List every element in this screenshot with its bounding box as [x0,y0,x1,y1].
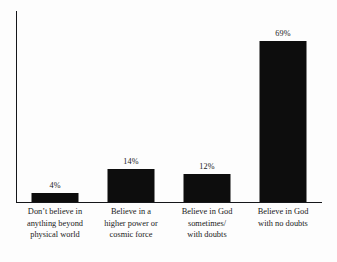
bar-value-label-1: 14% [123,157,138,166]
bar-chart: 4% 14% 12% 69% Don’t believe in anything… [0,0,337,262]
x-axis-label-3: Believe in God with no doubts [240,206,326,229]
x-axis-label-1-line-0: Believe in a [88,206,174,218]
bar-group-1: 14% [93,11,169,202]
x-axis-label-0: Don’t believe in anything beyond physica… [12,206,98,241]
x-axis-label-2-line-2: with doubts [164,229,250,241]
x-axis-label-0-line-0: Don’t believe in [12,206,98,218]
bar-0[interactable] [32,193,79,202]
bar-group-2: 12% [169,11,245,202]
x-axis-label-1-line-2: cosmic force [88,229,174,241]
x-axis-label-3-line-0: Believe in God [240,206,326,218]
x-axis-label-0-line-2: physical world [12,229,98,241]
bar-1[interactable] [108,169,155,202]
bar-3[interactable] [260,41,307,202]
bar-value-label-2: 12% [199,162,214,171]
bar-group-0: 4% [17,11,93,202]
x-axis-label-0-line-1: anything beyond [12,218,98,230]
x-axis-label-1-line-1: higher power or [88,218,174,230]
bar-group-3: 69% [245,11,321,202]
x-axis-label-2: Believe in God sometimes/ with doubts [164,206,250,241]
x-axis-label-3-line-1: with no doubts [240,218,326,230]
x-axis-label-2-line-0: Believe in God [164,206,250,218]
bar-value-label-3: 69% [275,29,290,38]
x-axis-category-labels: Don’t believe in anything beyond physica… [17,206,322,260]
bar-value-label-0: 4% [49,181,60,190]
bar-2[interactable] [184,174,231,202]
x-axis-label-1: Believe in a higher power or cosmic forc… [88,206,174,241]
plot-area: 4% 14% 12% 69% [17,11,322,202]
x-axis-label-2-line-1: sometimes/ [164,218,250,230]
